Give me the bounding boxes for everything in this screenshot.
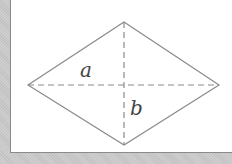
label-b: b <box>130 96 143 120</box>
label-a: a <box>80 58 92 82</box>
rhombus-diagram: a b <box>0 0 232 164</box>
